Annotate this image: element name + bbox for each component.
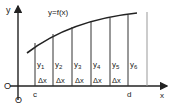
y-axis-label: y xyxy=(6,5,11,15)
svg-text:y4: y4 xyxy=(93,60,101,70)
svg-text:y1: y1 xyxy=(37,60,45,70)
svg-text:y6: y6 xyxy=(130,60,138,70)
origin-label-below: O xyxy=(15,95,22,105)
svg-text:y3: y3 xyxy=(74,60,82,70)
function-curve xyxy=(27,13,137,53)
svg-text:Δx: Δx xyxy=(112,76,121,85)
riemann-sum-diagram: y x y=f(x) O O c d y1 y2 y3 y4 y5 y6 Δx … xyxy=(0,0,173,109)
start-label: c xyxy=(33,90,37,99)
ordinate-lines xyxy=(35,12,147,86)
svg-text:Δx: Δx xyxy=(56,76,65,85)
svg-text:y5: y5 xyxy=(112,60,120,70)
svg-text:Δx: Δx xyxy=(93,76,102,85)
diagram-svg: y x y=f(x) O O c d y1 y2 y3 y4 y5 y6 Δx … xyxy=(0,0,173,109)
origin-label: O xyxy=(4,81,11,91)
end-label: d xyxy=(127,90,131,99)
interval-labels: Δx Δx Δx Δx Δx xyxy=(38,76,121,85)
ordinate-labels: y1 y2 y3 y4 y5 y6 xyxy=(37,60,138,70)
svg-text:Δx: Δx xyxy=(75,76,84,85)
x-axis-label: x xyxy=(160,91,164,100)
svg-text:Δx: Δx xyxy=(38,76,47,85)
curve-label: y=f(x) xyxy=(48,8,69,17)
svg-text:y2: y2 xyxy=(55,60,63,70)
